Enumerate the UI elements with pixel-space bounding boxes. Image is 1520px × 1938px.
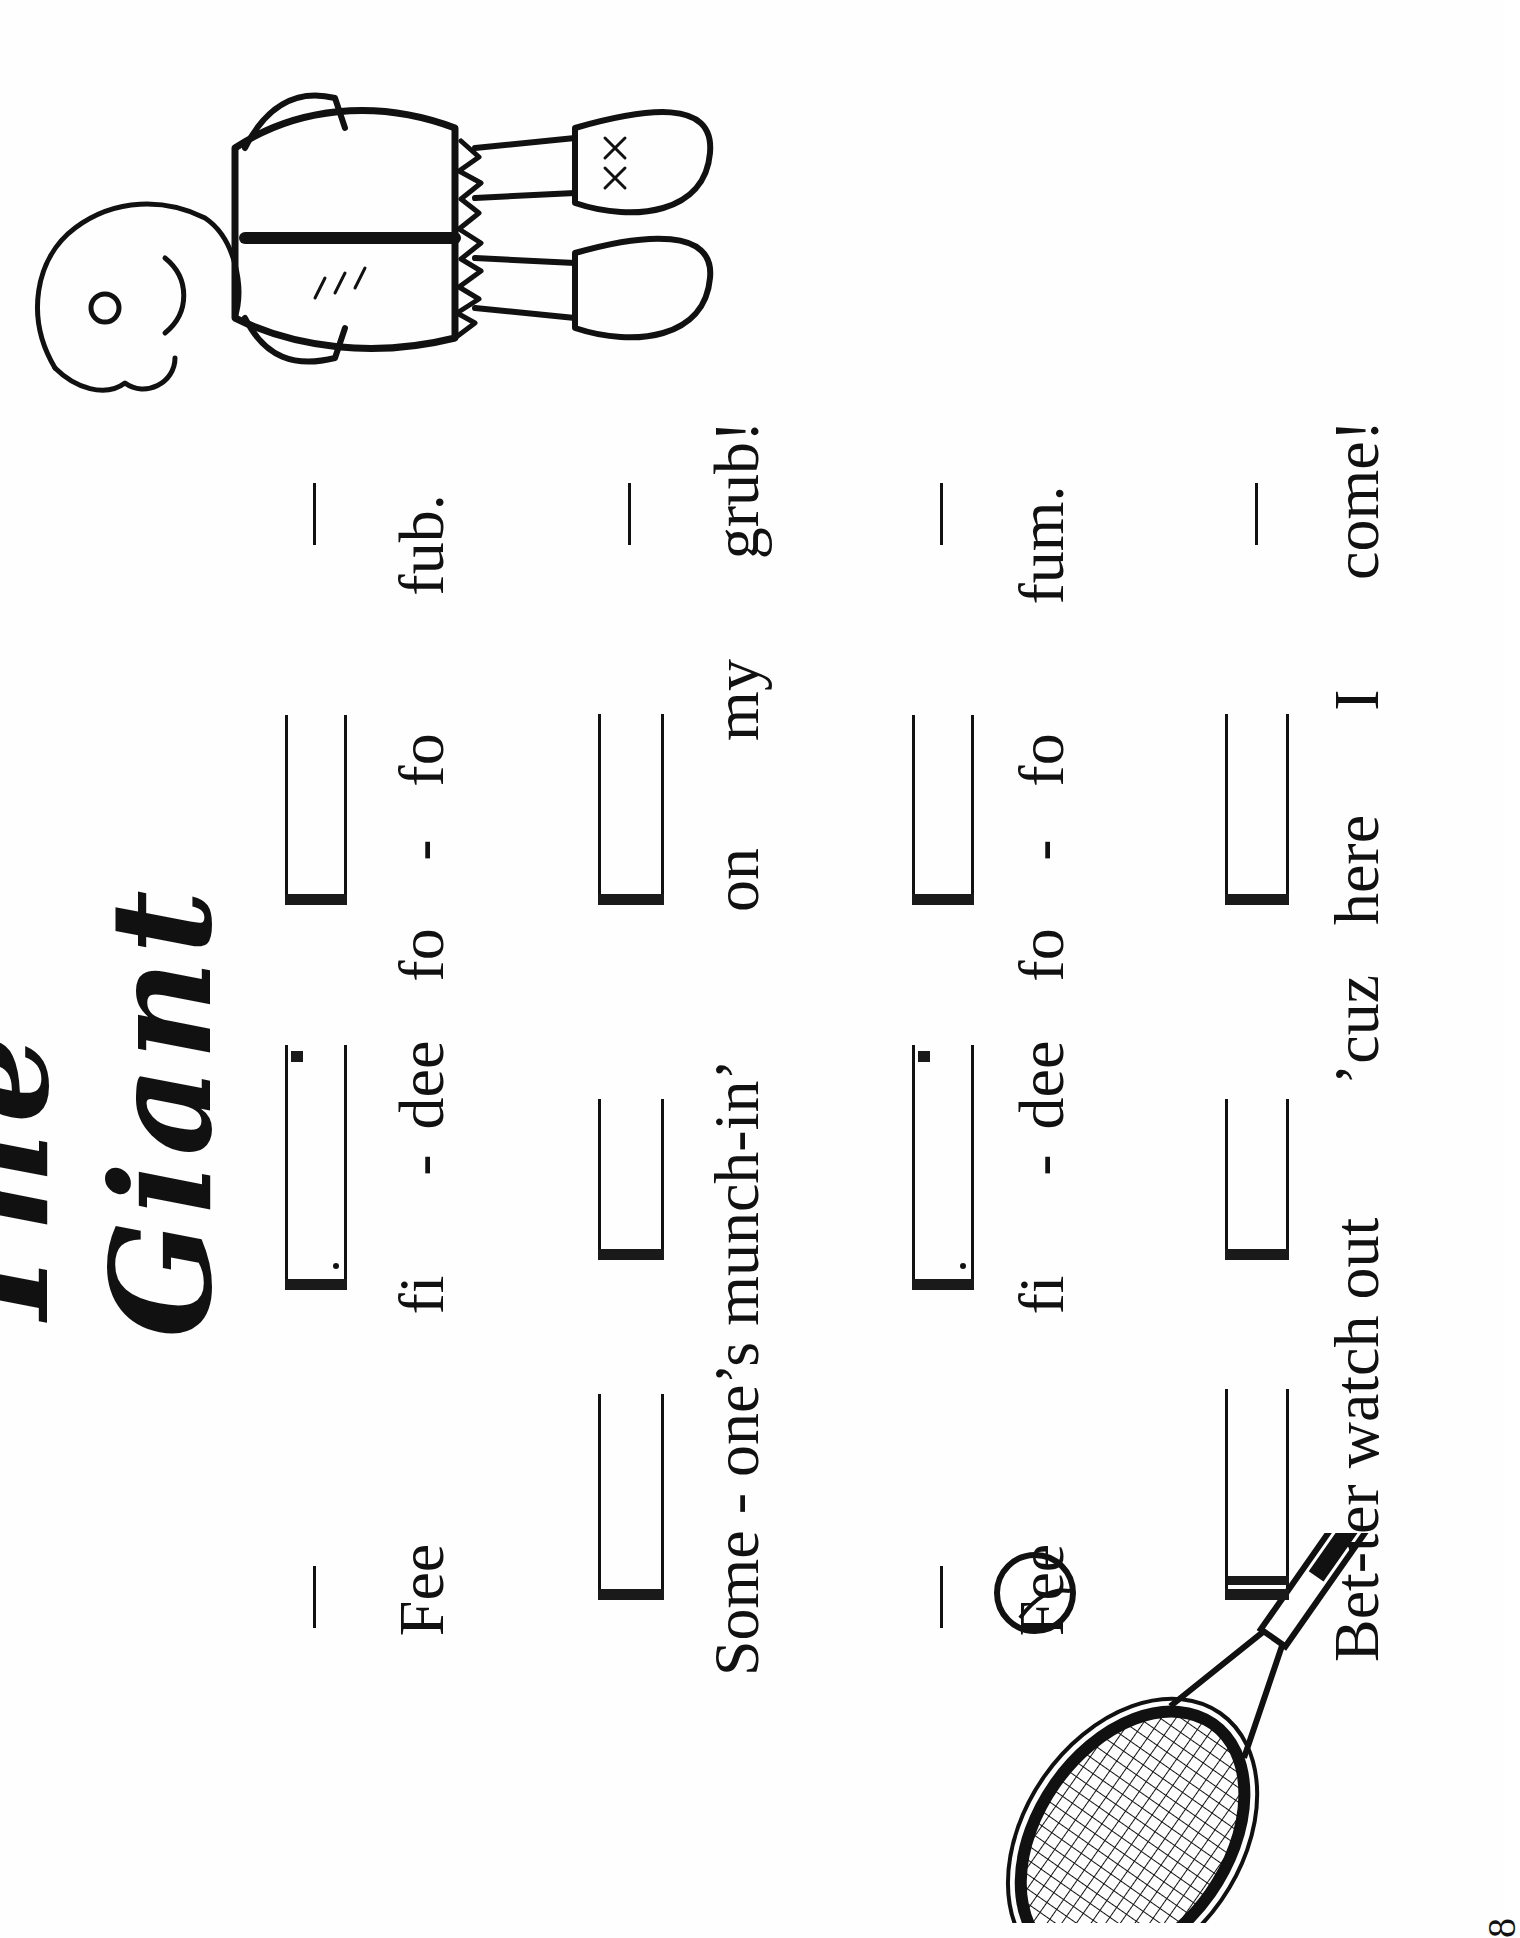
lyric-word: dee (390, 1041, 454, 1130)
lyric-word: fo (1010, 733, 1074, 786)
page-title: The Giant (0, 658, 160, 1338)
lyric-word: fi (390, 1275, 454, 1314)
lyric-word: - (390, 1154, 454, 1175)
lyric-word: grub! (705, 421, 769, 560)
rest-bar (940, 1566, 943, 1628)
rest-bar (940, 483, 943, 545)
lyric-word: come! (1325, 420, 1389, 580)
lyric-word: ’cuz (1325, 975, 1389, 1085)
page-number: 8 (1478, 1918, 1520, 1938)
lyric-word: fi (1010, 1275, 1074, 1314)
lyric-word: Fee (390, 1544, 454, 1636)
lyric-word: my (705, 659, 769, 741)
lyric-word: Fee (1010, 1544, 1074, 1636)
lyric-word: dee (1010, 1041, 1074, 1130)
rest-bar (1255, 483, 1258, 545)
lyric-word: I (1325, 689, 1389, 710)
lyric-word: fo (390, 733, 454, 786)
eighth-pair-bracket (912, 715, 974, 905)
dotted-rhythm-bracket (912, 1045, 974, 1290)
eighth-pair-bracket (598, 1099, 664, 1260)
eighth-pair-bracket (598, 714, 664, 905)
lyric-word: fo (390, 928, 454, 981)
eighth-pair-bracket (598, 1394, 664, 1600)
giant-illustration-icon (15, 28, 725, 428)
rest-bar (313, 483, 316, 545)
eighth-pair-bracket (1225, 1099, 1289, 1260)
eighth-pair-bracket (285, 715, 347, 905)
lyric-word: fub. (390, 494, 454, 595)
lyric-word: on (705, 848, 769, 912)
lyric-word: - (390, 839, 454, 860)
lyric-word: fum. (1010, 485, 1074, 604)
dotted-rhythm-bracket (285, 1045, 347, 1290)
rest-bar (313, 1566, 316, 1628)
rest-bar (628, 483, 631, 545)
lyric-word: - (1010, 839, 1074, 860)
lyric-word: fo (1010, 928, 1074, 981)
lyric-phrase: Bet-ter watch out (1325, 1218, 1389, 1662)
eighth-pair-bracket (1225, 714, 1289, 905)
lyric-word: - (1010, 1154, 1074, 1175)
lyric-word: here (1325, 815, 1389, 925)
lyric-phrase: Some - one’s munch-in’ (705, 1059, 769, 1676)
sixteenth-group-bracket (1225, 1389, 1289, 1600)
